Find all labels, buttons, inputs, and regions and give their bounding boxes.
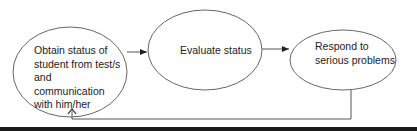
label-line: student from test/s [34, 58, 124, 72]
label-line: serious problems [315, 54, 400, 68]
label-line: Obtain status of [34, 44, 124, 58]
label-line: with him/her [34, 98, 124, 112]
node-obtain-label: Obtain status of student from test/s and… [34, 44, 124, 112]
label-line: and communication [34, 71, 124, 98]
label-line: Evaluate status [180, 44, 260, 58]
label-line: Respond to [315, 40, 400, 54]
node-respond-label: Respond to serious problems [315, 40, 400, 67]
node-evaluate-label: Evaluate status [180, 44, 260, 58]
bottom-border-bar [0, 127, 417, 131]
